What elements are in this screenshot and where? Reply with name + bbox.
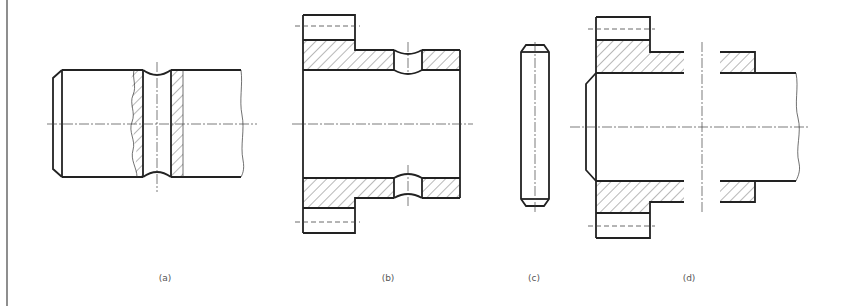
view-b-flanged-bushing: (b) [292, 15, 473, 283]
view-d-label: (d) [683, 273, 696, 283]
view-a-label: (a) [159, 273, 172, 283]
drawing-canvas: (a) [0, 0, 845, 306]
view-b-label: (b) [382, 273, 395, 283]
view-c-label: (c) [528, 273, 540, 283]
view-a-shaft: (a) [47, 62, 257, 283]
view-c-pin: (c) [521, 42, 549, 283]
view-d-assembly: (d) [570, 17, 808, 283]
